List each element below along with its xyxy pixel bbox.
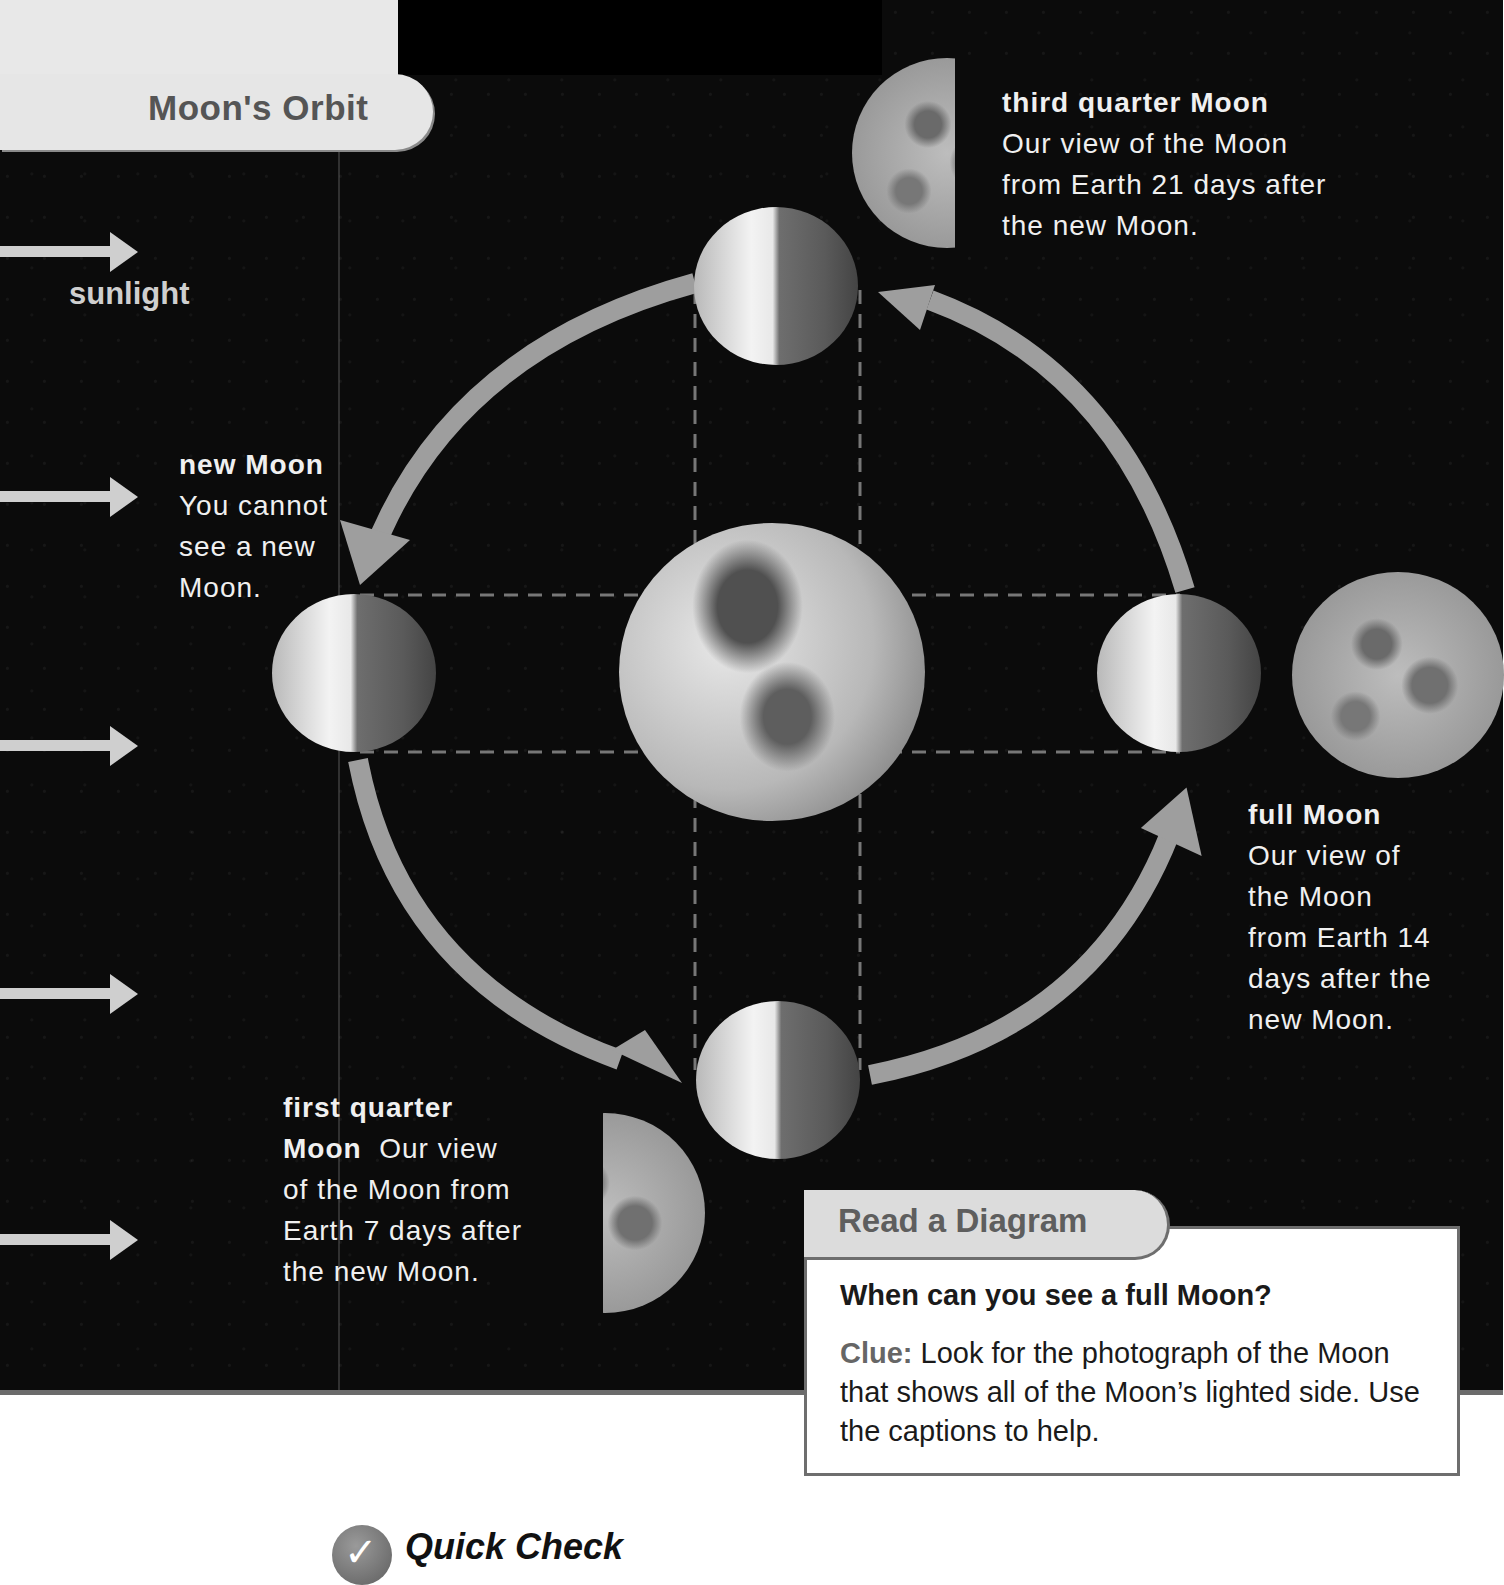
clue-text: Look for the photograph of the Moon that… bbox=[840, 1337, 1420, 1447]
caption-line: from Earth 14 bbox=[1248, 917, 1432, 958]
phase-name: new Moon bbox=[179, 449, 324, 480]
caption-third-quarter: third quarter Moon Our view of the Moon … bbox=[1002, 82, 1326, 246]
moon-model-first-quarter bbox=[696, 1001, 860, 1159]
caption-line: new Moon. bbox=[1248, 999, 1432, 1040]
earth-image bbox=[619, 523, 925, 821]
moon-model-new bbox=[272, 594, 436, 752]
moon-model-third-quarter bbox=[694, 207, 858, 365]
caption-line: You cannot bbox=[179, 485, 328, 526]
caption-line: see a new bbox=[179, 526, 328, 567]
caption-line: Our view of the Moon bbox=[1002, 123, 1326, 164]
caption-new-moon: new Moon You cannot see a new Moon. bbox=[179, 444, 328, 608]
full-moon-photo bbox=[1292, 572, 1504, 778]
checkmark-icon: ✓ bbox=[332, 1525, 392, 1585]
phase-name: Moon bbox=[283, 1133, 362, 1164]
caption-line: the new Moon. bbox=[1002, 205, 1326, 246]
read-a-diagram-title: Read a Diagram bbox=[838, 1202, 1087, 1240]
quick-check-heading: Quick Check bbox=[405, 1526, 623, 1568]
caption-line: the new Moon. bbox=[283, 1251, 522, 1292]
clue-label: Clue: bbox=[840, 1337, 913, 1369]
phase-name: third quarter Moon bbox=[1002, 87, 1269, 118]
caption-line: Our view of bbox=[1248, 835, 1432, 876]
phase-name: first quarter bbox=[283, 1092, 453, 1123]
caption-line: of the Moon from bbox=[283, 1169, 522, 1210]
phase-name: full Moon bbox=[1248, 799, 1381, 830]
caption-first-quarter: first quarter Moon Our view of the Moon … bbox=[283, 1087, 522, 1292]
caption-line: days after the bbox=[1248, 958, 1432, 999]
caption-line: Moon. bbox=[179, 567, 328, 608]
caption-line: from Earth 21 days after bbox=[1002, 164, 1326, 205]
read-a-diagram-clue: Clue: Look for the photograph of the Moo… bbox=[840, 1334, 1440, 1451]
caption-line: Our view bbox=[379, 1133, 497, 1164]
caption-line: Earth 7 days after bbox=[283, 1210, 522, 1251]
read-a-diagram-question: When can you see a full Moon? bbox=[840, 1279, 1272, 1312]
moon-model-full bbox=[1097, 594, 1261, 752]
caption-full-moon: full Moon Our view of the Moon from Eart… bbox=[1248, 794, 1432, 1040]
caption-line: the Moon bbox=[1248, 876, 1432, 917]
